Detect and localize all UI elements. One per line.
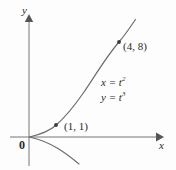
equation-y: y = t3 xyxy=(101,92,125,103)
equation-x: x = t2 xyxy=(101,77,125,88)
parametric-curve-figure: y x 0 (1, 1) (4, 8) x = t2 y = t3 xyxy=(0,0,176,170)
y-axis-label: y xyxy=(22,5,27,16)
origin-label: 0 xyxy=(19,139,25,151)
curve-lower-branch xyxy=(30,137,80,164)
x-axis-label: x xyxy=(159,140,164,151)
point-label-1-1: (1, 1) xyxy=(64,121,88,132)
equation-y-exponent: 3 xyxy=(122,90,126,98)
equation-y-relation: = xyxy=(106,91,119,103)
figure-canvas xyxy=(0,0,176,170)
point-marker-4-8 xyxy=(117,40,121,44)
point-marker-1-1 xyxy=(54,123,58,127)
point-label-4-8: (4, 8) xyxy=(123,41,147,52)
equation-x-relation: = xyxy=(106,76,119,88)
equation-x-exponent: 2 xyxy=(122,75,126,83)
